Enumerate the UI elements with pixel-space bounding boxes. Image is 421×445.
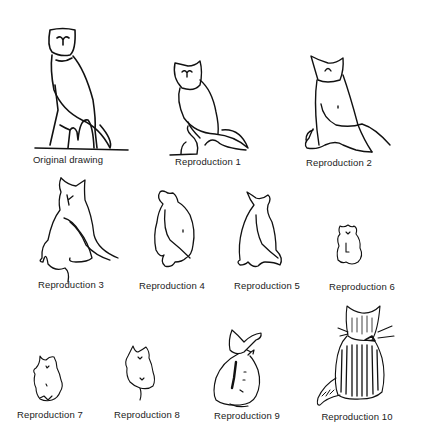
label-reproduction-5: Reproduction 5 (234, 280, 300, 291)
label-reproduction-10: Reproduction 10 (321, 411, 392, 422)
reproduction-10-striped-cat (317, 306, 394, 405)
reproduction-9-cat-with-bow (214, 330, 261, 407)
reproduction-3-cat (40, 178, 118, 282)
drawings-canvas (0, 0, 421, 445)
original-drawing-owl (35, 29, 128, 151)
label-reproduction-6: Reproduction 6 (329, 281, 395, 292)
label-reproduction-2: Reproduction 2 (306, 157, 372, 168)
label-reproduction-8: Reproduction 8 (114, 409, 180, 420)
label-reproduction-9: Reproduction 9 (214, 410, 280, 421)
label-original-drawing: Original drawing (33, 154, 103, 165)
label-reproduction-7: Reproduction 7 (17, 409, 83, 420)
label-reproduction-1: Reproduction 1 (175, 156, 241, 167)
label-reproduction-3: Reproduction 3 (38, 279, 104, 290)
reproduction-4-cat (155, 191, 194, 267)
reproduction-8-cat (126, 346, 155, 400)
reproduction-2-owl-cat (305, 56, 390, 152)
reproduction-7-cat (34, 356, 63, 401)
label-reproduction-4: Reproduction 4 (139, 280, 205, 291)
serial-reproduction-figure: Original drawing Reproduction 1 Reproduc… (0, 0, 421, 445)
reproduction-1-owl (170, 61, 248, 155)
reproduction-6-cat (337, 225, 361, 264)
reproduction-5-cat (238, 192, 281, 267)
